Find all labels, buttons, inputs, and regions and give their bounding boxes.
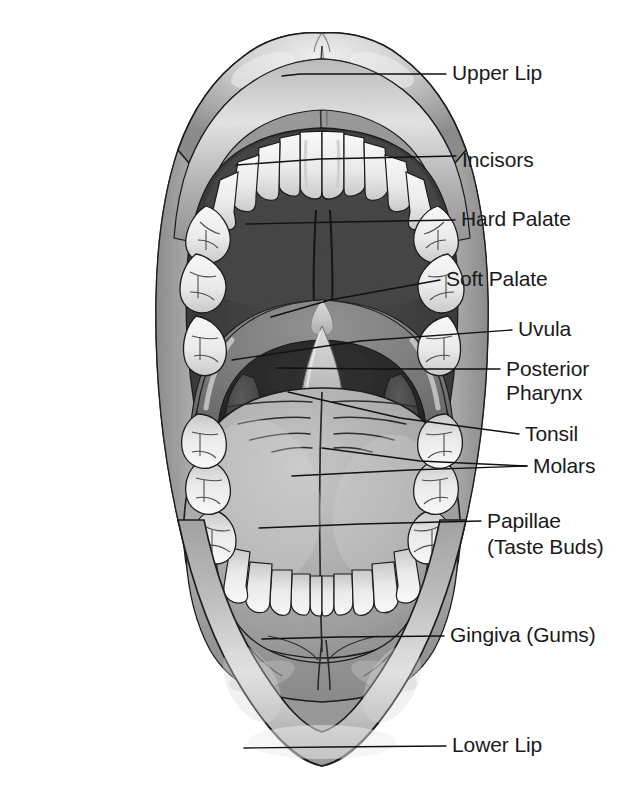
label-posterior-pharynx: Posterior [506, 357, 589, 380]
diagram-canvas: Upper Lip Incisors Hard Palate Soft Pala… [0, 0, 644, 793]
label-uvula: Uvula [518, 317, 572, 340]
label-upper-lip: Upper Lip [452, 61, 542, 84]
label-soft-palate: Soft Palate [446, 267, 548, 290]
label-incisors: Incisors [462, 148, 534, 171]
label-molars: Molars [533, 454, 595, 477]
label-papillae: Papillae [487, 509, 561, 532]
label-tonsil: Tonsil [525, 422, 578, 445]
label-papillae-line2: (Taste Buds) [487, 535, 604, 558]
label-hard-palate: Hard Palate [461, 207, 571, 230]
label-lower-lip: Lower Lip [452, 733, 542, 756]
label-gingiva: Gingiva (Gums) [450, 623, 596, 646]
label-posterior-pharynx-line2: Pharynx [506, 381, 583, 404]
oral-cavity-diagram: Upper Lip Incisors Hard Palate Soft Pala… [0, 0, 644, 793]
